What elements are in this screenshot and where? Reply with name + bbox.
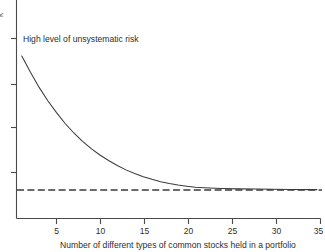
x-tick-label-30: 30: [272, 226, 282, 236]
unsystematic-risk-annotation: High level of unsystematic risk: [23, 34, 139, 44]
chart-canvas: k High level of unsystematic: [0, 0, 325, 252]
x-tick-label-35: 35: [314, 226, 324, 236]
x-axis-ticks: [57, 219, 321, 225]
x-axis-caption: Number of different types of common stoc…: [60, 240, 296, 250]
x-tick-label-15: 15: [140, 226, 150, 236]
x-tick-label-5: 5: [54, 226, 59, 236]
y-axis-label-text: k: [0, 12, 5, 17]
y-axis-label-clipped: k: [0, 12, 5, 17]
x-axis-tick-labels: 5 10 15 20 25 30 35: [54, 226, 323, 236]
total-risk-curve: [22, 56, 317, 190]
x-tick-label-20: 20: [184, 226, 194, 236]
risk-diversification-chart: k High level of unsystematic: [0, 0, 325, 252]
y-axis-ticks: [11, 39, 17, 173]
x-tick-label-10: 10: [96, 226, 106, 236]
x-tick-label-25: 25: [228, 226, 238, 236]
